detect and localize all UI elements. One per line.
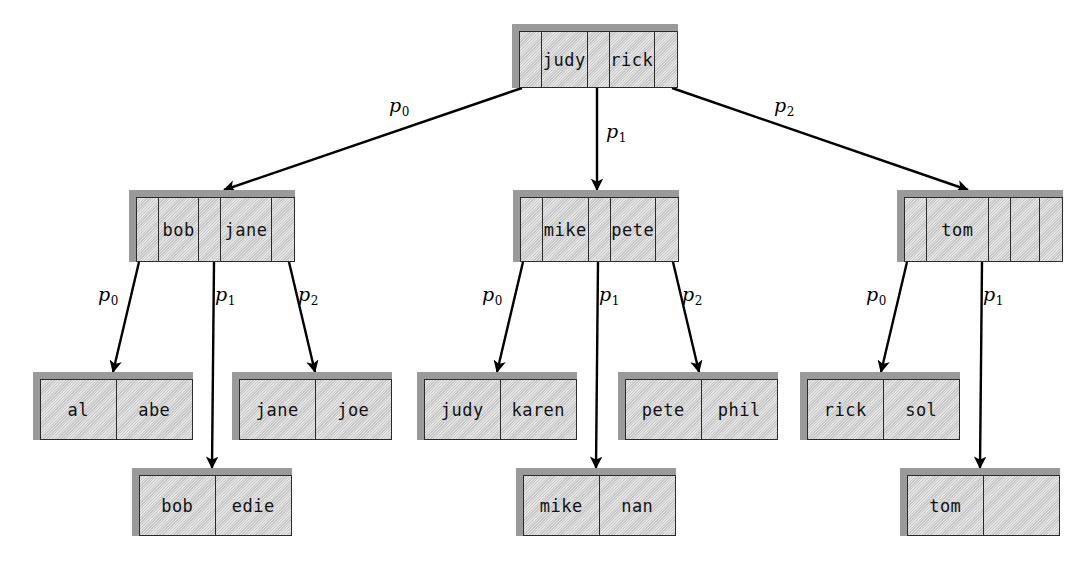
node-internal2[interactable]: mike pete bbox=[513, 190, 679, 262]
node-leaf7[interactable]: rick sol bbox=[800, 372, 960, 440]
internal1-pointer-1[interactable] bbox=[199, 198, 221, 261]
internal2-pointer-1[interactable] bbox=[589, 198, 611, 261]
node-leaf2[interactable]: bob edie bbox=[132, 468, 292, 536]
internal2-pointer-2[interactable] bbox=[656, 198, 678, 261]
leaf8-key-1 bbox=[984, 476, 1060, 535]
internal3-key-0: tom bbox=[927, 198, 989, 261]
leaf1-key-0: al bbox=[41, 380, 117, 439]
node-leaf5[interactable]: mike nan bbox=[516, 468, 676, 536]
node-face: tom bbox=[904, 197, 1063, 262]
leaf1-key-1: abe bbox=[117, 380, 193, 439]
node-face: al abe bbox=[40, 379, 193, 440]
node-face: bob edie bbox=[139, 475, 292, 536]
node-leaf1[interactable]: al abe bbox=[33, 372, 193, 440]
node-internal1[interactable]: bob jane bbox=[129, 190, 295, 262]
internal3-pointer-1[interactable] bbox=[989, 198, 1011, 261]
node-leaf8[interactable]: tom bbox=[900, 468, 1060, 536]
root-key-0: judy bbox=[542, 32, 588, 87]
node-face: judy karen bbox=[424, 379, 577, 440]
node-leaf6[interactable]: pete phil bbox=[618, 372, 778, 440]
internal3-pointer-0[interactable] bbox=[905, 198, 927, 261]
node-leaf3[interactable]: jane joe bbox=[232, 372, 392, 440]
leaf3-key-0: jane bbox=[240, 380, 316, 439]
node-face: bob jane bbox=[136, 197, 295, 262]
node-face: tom bbox=[907, 475, 1060, 536]
node-face: jane joe bbox=[239, 379, 392, 440]
node-root[interactable]: judy rick bbox=[512, 24, 678, 88]
internal1-pointer-2[interactable] bbox=[272, 198, 294, 261]
root-pointer-2[interactable] bbox=[655, 32, 677, 87]
internal3-pointer-2 bbox=[1040, 198, 1062, 261]
node-face: rick sol bbox=[807, 379, 960, 440]
leaf7-key-1: sol bbox=[884, 380, 960, 439]
leaf8-key-0: tom bbox=[908, 476, 984, 535]
root-pointer-0[interactable] bbox=[520, 32, 542, 87]
btree-diagram: judy rick bob jane mike pete bbox=[0, 0, 1078, 565]
leaf2-key-0: bob bbox=[140, 476, 216, 535]
leaf5-key-0: mike bbox=[524, 476, 600, 535]
internal1-key-0: bob bbox=[159, 198, 199, 261]
node-face: judy rick bbox=[519, 31, 678, 88]
node-face: mike nan bbox=[523, 475, 676, 536]
node-leaf4[interactable]: judy karen bbox=[417, 372, 577, 440]
leaf2-key-1: edie bbox=[216, 476, 292, 535]
leaf5-key-1: nan bbox=[600, 476, 676, 535]
internal2-pointer-0[interactable] bbox=[521, 198, 543, 261]
leaf4-key-1: karen bbox=[501, 380, 577, 439]
node-internal3[interactable]: tom bbox=[897, 190, 1063, 262]
node-face: mike pete bbox=[520, 197, 679, 262]
leaf7-key-0: rick bbox=[808, 380, 884, 439]
node-face: pete phil bbox=[625, 379, 778, 440]
internal2-key-1: pete bbox=[611, 198, 657, 261]
leaf4-key-0: judy bbox=[425, 380, 501, 439]
internal1-pointer-0[interactable] bbox=[137, 198, 159, 261]
internal3-key-1 bbox=[1011, 198, 1040, 261]
root-key-1: rick bbox=[610, 32, 656, 87]
root-pointer-1[interactable] bbox=[588, 32, 610, 87]
leaf6-key-1: phil bbox=[702, 380, 778, 439]
leaf6-key-0: pete bbox=[626, 380, 702, 439]
leaf3-key-1: joe bbox=[316, 380, 392, 439]
internal2-key-0: mike bbox=[543, 198, 589, 261]
internal1-key-1: jane bbox=[221, 198, 272, 261]
